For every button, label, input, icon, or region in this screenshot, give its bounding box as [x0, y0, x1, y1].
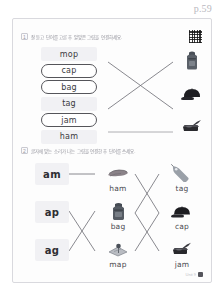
rime-cell-ap[interactable]: ap — [29, 201, 75, 223]
instruction-row-1: 1 잘 듣고 단어를 고른 후 알맞은 그림을 연결하세요. — [21, 33, 122, 40]
picture-cell-jam[interactable]: jam — [159, 239, 205, 269]
backpack-image[interactable] — [177, 49, 207, 71]
section-number-1: 1 — [21, 33, 28, 40]
rime-ag[interactable]: ag — [35, 239, 69, 261]
cap-image[interactable] — [177, 83, 207, 105]
picture-label-map: map — [109, 260, 126, 269]
page-number: p.59 — [194, 3, 212, 14]
picture-cell-cap[interactable]: cap — [159, 201, 205, 231]
rime-ap[interactable]: ap — [35, 201, 69, 223]
backpack-icon — [181, 49, 203, 71]
picture-cell-map[interactable]: map — [95, 239, 141, 269]
section-2: am ap ag — [13, 161, 213, 279]
instruction-row-2: 2 글자에 맞는 소리가 나는 그림을 연결한 후 단어를 쓰세요. — [21, 147, 136, 154]
bag-image — [103, 201, 133, 221]
worksheet-sheet: 1 잘 듣고 단어를 고른 후 알맞은 그림을 연결하세요. mop cap b… — [12, 18, 212, 283]
map-icon — [106, 241, 130, 257]
picture-label-tag: tag — [176, 184, 189, 193]
tag-image — [167, 163, 197, 183]
picture-label-jam: jam — [175, 260, 190, 269]
jam-image — [167, 239, 197, 259]
backpack-icon — [110, 201, 127, 221]
instruction-text-2: 글자에 맞는 소리가 나는 그림을 연결한 후 단어를 쓰세요. — [31, 148, 136, 154]
picture-label-ham: ham — [109, 184, 126, 193]
ham-image — [103, 163, 133, 183]
picture-label-bag: bag — [111, 222, 126, 231]
footer-page-badge — [198, 272, 203, 277]
picture-label-cap: cap — [175, 222, 189, 231]
picture-cell-ham[interactable]: ham — [95, 163, 141, 193]
price-tag-icon — [171, 164, 193, 182]
rime-cell-am[interactable]: am — [29, 163, 75, 185]
baseball-cap-icon — [170, 204, 194, 219]
qr-code-icon[interactable] — [188, 29, 203, 44]
picture-cell-tag[interactable]: tag — [159, 163, 205, 193]
instruction-text-1: 잘 듣고 단어를 고른 후 알맞은 그림을 연결하세요. — [31, 34, 122, 40]
cap-image — [167, 201, 197, 221]
jam-image[interactable] — [177, 115, 207, 137]
picture-cell-bag[interactable]: bag — [95, 201, 141, 231]
rime-am[interactable]: am — [35, 163, 69, 185]
ham-slice-icon — [106, 167, 130, 180]
jam-jar-icon — [180, 118, 204, 134]
map-image — [103, 239, 133, 259]
jam-jar-icon — [170, 241, 194, 257]
rime-cell-ag[interactable]: ag — [29, 239, 75, 261]
footer-text: Unit 9 — [186, 272, 196, 277]
footer: Unit 9 — [186, 272, 203, 277]
worksheet-page: p.59 1 잘 듣고 단어를 고른 후 알맞은 그림을 연결하세요. mop … — [0, 0, 224, 294]
section-number-2: 2 — [21, 147, 28, 154]
baseball-cap-icon — [180, 86, 204, 102]
section-1: mop cap bag tag jam ham — [13, 47, 213, 145]
